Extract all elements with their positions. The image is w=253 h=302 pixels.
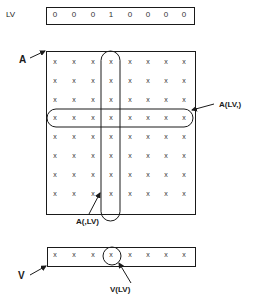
col-selection-arrow: [89, 193, 100, 214]
matrix-arrow: [30, 51, 45, 58]
col-selection-outline: [101, 51, 120, 221]
annotation-overlay: [0, 0, 253, 302]
vector-arrow: [30, 266, 46, 275]
vector-selection-outline: [103, 247, 121, 265]
row-selection-arrow: [192, 104, 214, 110]
vector-selection-arrow: [119, 263, 131, 283]
